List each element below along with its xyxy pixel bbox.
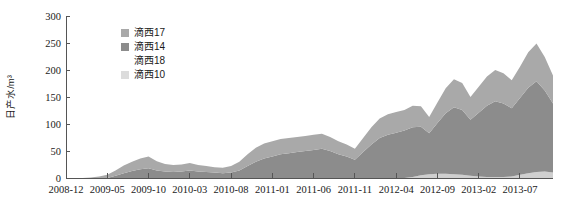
legend-swatch-icon bbox=[121, 71, 129, 79]
x-tick-label: 2012-09 bbox=[420, 184, 455, 195]
chart-legend: 滴西17滴西14滴西18滴西10 bbox=[121, 26, 165, 81]
y-axis-title-text: 日产水/m³ bbox=[5, 75, 16, 119]
x-tick-label: 2008-12 bbox=[49, 184, 84, 195]
x-tick-label: 2009-10 bbox=[131, 184, 166, 195]
x-tick-label: 2010-08 bbox=[214, 184, 249, 195]
legend-swatch-icon bbox=[121, 57, 129, 65]
x-tick-label: 2013-02 bbox=[461, 184, 496, 195]
chart-plot: 050100150200250300 2008-122009-052009-10… bbox=[0, 0, 569, 207]
x-tick-label: 2011-01 bbox=[255, 184, 290, 195]
x-tick-label: 2009-05 bbox=[90, 184, 125, 195]
y-tick-label: 200 bbox=[45, 65, 61, 76]
legend-swatch-icon bbox=[121, 43, 129, 51]
x-tick-label: 2012-04 bbox=[379, 184, 415, 195]
y-tick-label: 150 bbox=[45, 92, 61, 103]
legend-item-label: 滴西14 bbox=[134, 41, 165, 52]
x-tick-label: 2011-06 bbox=[296, 184, 331, 195]
y-axis-tick-labels: 050100150200250300 bbox=[45, 11, 61, 184]
x-tick-label: 2010-03 bbox=[172, 184, 207, 195]
legend-item-label: 滴西18 bbox=[134, 55, 165, 66]
legend-item-滴西17[interactable]: 滴西17 bbox=[121, 26, 165, 39]
x-tick-label: 2011-11 bbox=[338, 184, 372, 195]
chart-container: 050100150200250300 2008-122009-052009-10… bbox=[0, 0, 569, 207]
legend-item-滴西18[interactable]: 滴西18 bbox=[121, 54, 165, 67]
legend-swatch-icon bbox=[121, 29, 129, 37]
legend-item-滴西14[interactable]: 滴西14 bbox=[121, 40, 165, 53]
x-tick-label: 2013-07 bbox=[502, 184, 537, 195]
y-tick-label: 0 bbox=[56, 173, 61, 184]
y-tick-label: 300 bbox=[45, 11, 61, 22]
y-tick-label: 250 bbox=[45, 38, 61, 49]
legend-item-label: 滴西10 bbox=[134, 69, 165, 80]
legend-item-label: 滴西17 bbox=[134, 27, 165, 38]
x-axis-tick-labels: 2008-122009-052009-102010-032010-082011-… bbox=[49, 184, 538, 195]
y-tick-label: 50 bbox=[51, 146, 62, 157]
y-tick-label: 100 bbox=[45, 119, 61, 130]
y-axis-title: 日产水/m³ bbox=[5, 75, 16, 119]
legend-item-滴西10[interactable]: 滴西10 bbox=[121, 68, 165, 81]
